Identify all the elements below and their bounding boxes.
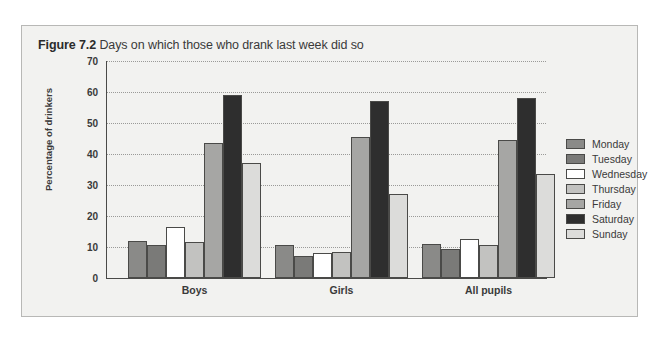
figure-number: Figure 7.2: [38, 38, 96, 52]
x-axis-group-label: Girls: [262, 284, 422, 296]
legend: MondayTuesdayWednesdayThursdayFridaySatu…: [566, 136, 659, 241]
bar-all-pupils-wednesday[interactable]: [460, 239, 479, 278]
bar-all-pupils-monday[interactable]: [422, 244, 441, 278]
x-axis-line: [106, 278, 547, 279]
bar-boys-thursday[interactable]: [185, 242, 204, 278]
y-axis-tick-label: 10: [72, 242, 98, 253]
bar-group: [128, 61, 261, 278]
bar-girls-monday[interactable]: [275, 245, 294, 278]
y-axis-line: [106, 61, 107, 279]
y-axis-tick-label: 60: [72, 87, 98, 98]
figure-title-text: Days on which those who drank last week …: [99, 38, 363, 52]
y-axis-tick-label: 0: [72, 273, 98, 284]
bar-all-pupils-thursday[interactable]: [479, 245, 498, 278]
legend-item-thursday[interactable]: Thursday: [566, 181, 659, 196]
legend-label: Wednesday: [592, 168, 647, 180]
legend-swatch-icon: [566, 154, 585, 164]
legend-label: Saturday: [592, 213, 634, 225]
bar-all-pupils-friday[interactable]: [498, 140, 517, 278]
bar-all-pupils-saturday[interactable]: [517, 98, 536, 278]
bar-boys-tuesday[interactable]: [147, 245, 166, 278]
legend-label: Tuesday: [592, 153, 632, 165]
plot-area: BoysGirlsAll pupils: [106, 61, 546, 278]
y-axis-label: Percentage of drinkers: [43, 70, 54, 210]
y-axis-tick-label: 50: [72, 118, 98, 129]
figure-panel: Figure 7.2 Days on which those who drank…: [21, 25, 638, 317]
y-axis-tick-label: 70: [72, 56, 98, 67]
bar-group: [275, 61, 408, 278]
legend-swatch-icon: [566, 139, 585, 149]
legend-swatch-icon: [566, 199, 585, 209]
bar-boys-friday[interactable]: [204, 143, 223, 278]
legend-item-wednesday[interactable]: Wednesday: [566, 166, 659, 181]
legend-swatch-icon: [566, 214, 585, 224]
figure-title: Figure 7.2 Days on which those who drank…: [38, 38, 364, 52]
legend-label: Thursday: [592, 183, 636, 195]
y-axis-tick-label: 30: [72, 180, 98, 191]
legend-item-monday[interactable]: Monday: [566, 136, 659, 151]
legend-item-saturday[interactable]: Saturday: [566, 211, 659, 226]
bar-all-pupils-sunday[interactable]: [536, 174, 555, 278]
y-axis-tick-label: 40: [72, 149, 98, 160]
bar-boys-monday[interactable]: [128, 241, 147, 278]
bar-girls-tuesday[interactable]: [294, 256, 313, 278]
x-axis-group-label: All pupils: [409, 284, 569, 296]
y-axis-tick-label: 20: [72, 211, 98, 222]
legend-label: Friday: [592, 198, 621, 210]
legend-label: Sunday: [592, 228, 628, 240]
legend-label: Monday: [592, 138, 629, 150]
legend-swatch-icon: [566, 229, 585, 239]
legend-item-friday[interactable]: Friday: [566, 196, 659, 211]
y-axis-ticks: 010203040506070: [68, 61, 98, 278]
bar-girls-friday[interactable]: [351, 137, 370, 278]
bar-all-pupils-tuesday[interactable]: [441, 249, 460, 278]
bar-girls-wednesday[interactable]: [313, 253, 332, 278]
legend-swatch-icon: [566, 169, 585, 179]
legend-item-sunday[interactable]: Sunday: [566, 226, 659, 241]
legend-item-tuesday[interactable]: Tuesday: [566, 151, 659, 166]
legend-swatch-icon: [566, 184, 585, 194]
bar-group: [422, 61, 555, 278]
bar-girls-saturday[interactable]: [370, 101, 389, 278]
bar-boys-wednesday[interactable]: [166, 227, 185, 278]
bar-boys-saturday[interactable]: [223, 95, 242, 278]
bar-girls-thursday[interactable]: [332, 252, 351, 278]
bar-girls-sunday[interactable]: [389, 194, 408, 278]
x-axis-group-label: Boys: [115, 284, 275, 296]
bar-boys-sunday[interactable]: [242, 163, 261, 278]
